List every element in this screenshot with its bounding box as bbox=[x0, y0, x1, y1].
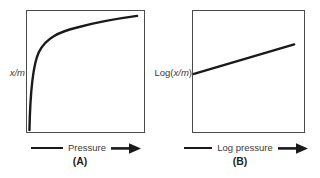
panel-a: x/m Pressure (A) bbox=[0, 0, 160, 178]
y-axis-label-b-prefix: Log( bbox=[155, 67, 174, 78]
plot-box-b bbox=[192, 10, 305, 133]
x-axis-label-b: Log pressure bbox=[217, 143, 272, 153]
y-axis-label-a: x/m bbox=[10, 68, 25, 78]
panel-b: Log(x/m) Log pressure (B) bbox=[160, 0, 320, 178]
y-axis-label-b: Log(x/m) bbox=[155, 68, 193, 78]
panel-caption-a: (A) bbox=[0, 156, 180, 167]
y-axis-label-b-suffix: ) bbox=[189, 67, 192, 78]
x-axis-label-row-a: Pressure bbox=[22, 141, 150, 155]
axis-line-left-a bbox=[31, 147, 63, 149]
line-linearised-freundlich bbox=[193, 11, 304, 132]
y-axis-label-b-italic: x/m bbox=[174, 67, 189, 78]
plot-box-a bbox=[26, 10, 145, 133]
x-axis-label-row-b: Log pressure bbox=[174, 141, 318, 155]
panel-caption-b: (B) bbox=[160, 156, 320, 167]
figure-root: x/m Pressure (A) Log(x/m) Log pressure bbox=[0, 0, 320, 178]
x-axis-label-a: Pressure bbox=[68, 143, 106, 153]
right-arrow-icon-a bbox=[111, 143, 141, 154]
axis-line-left-b bbox=[184, 147, 212, 149]
y-axis-label-a-italic: x/m bbox=[10, 67, 25, 78]
right-arrow-icon-b bbox=[278, 143, 308, 154]
curve-freundlich-isotherm bbox=[27, 11, 144, 132]
